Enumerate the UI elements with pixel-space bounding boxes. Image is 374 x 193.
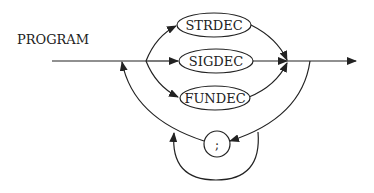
node-semicolon: ; bbox=[204, 131, 230, 157]
node-strdec-label: STRDEC bbox=[185, 18, 242, 33]
syntax-diagram: PROGRAM STRDEC SIGDEC FUNDEC ; bbox=[0, 0, 374, 193]
node-sigdec: SIGDEC bbox=[179, 49, 253, 73]
node-strdec: STRDEC bbox=[177, 13, 251, 37]
node-fundec: FUNDEC bbox=[180, 86, 250, 110]
node-sigdec-label: SIGDEC bbox=[189, 54, 243, 69]
edge-from-fundec bbox=[249, 63, 287, 97]
node-fundec-label: FUNDEC bbox=[184, 91, 245, 106]
edge-to-fundec bbox=[146, 61, 178, 97]
node-semicolon-label: ; bbox=[215, 138, 219, 152]
edge-to-strdec bbox=[146, 26, 176, 61]
diagram-title: PROGRAM bbox=[17, 32, 89, 47]
edge-from-strdec bbox=[251, 25, 287, 60]
